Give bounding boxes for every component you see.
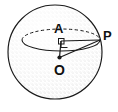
geometry-figure: A P O (0, 0, 118, 112)
point-O-dot (57, 55, 61, 59)
label-A: A (54, 22, 63, 35)
label-P: P (103, 29, 112, 42)
sphere-body (8, 5, 102, 99)
label-O: O (54, 63, 65, 77)
sphere-diagram-svg (0, 0, 118, 112)
